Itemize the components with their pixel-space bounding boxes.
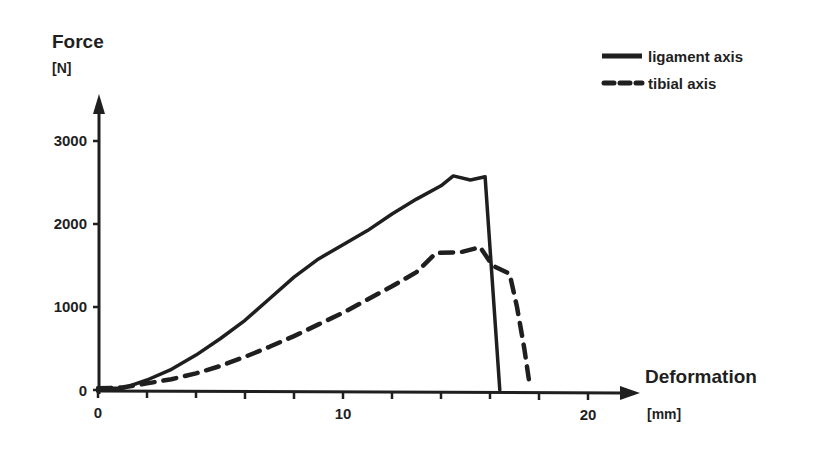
x-tick-label: 20 (580, 406, 597, 423)
y-tick-label: 1000 (54, 298, 87, 315)
tibial-axis-line (98, 247, 529, 388)
y-tick-label: 3000 (54, 132, 87, 149)
x-axis-title: Deformation (645, 366, 757, 387)
x-tick-label: 0 (94, 404, 102, 421)
ligament-axis-line (98, 176, 500, 390)
y-axis-title: Force (52, 31, 104, 52)
y-axis: 3000 2000 1000 0 (54, 94, 105, 399)
y-tick-label: 2000 (54, 215, 87, 232)
y-axis-arrow-icon (93, 94, 105, 114)
legend-label-ligament: ligament axis (648, 48, 743, 65)
legend: ligament axis tibial axis (602, 48, 743, 92)
x-axis: 0 10 20 (94, 386, 640, 423)
x-axis-arrow-icon (620, 386, 640, 400)
x-tick-label: 10 (335, 405, 352, 422)
force-deformation-chart: Force [N] Deformation [mm] 3000 2000 100… (0, 0, 816, 449)
legend-label-tibial: tibial axis (648, 75, 716, 92)
x-axis-unit: [mm] (647, 406, 681, 422)
y-tick-label: 0 (79, 382, 87, 399)
y-axis-unit: [N] (52, 60, 71, 76)
